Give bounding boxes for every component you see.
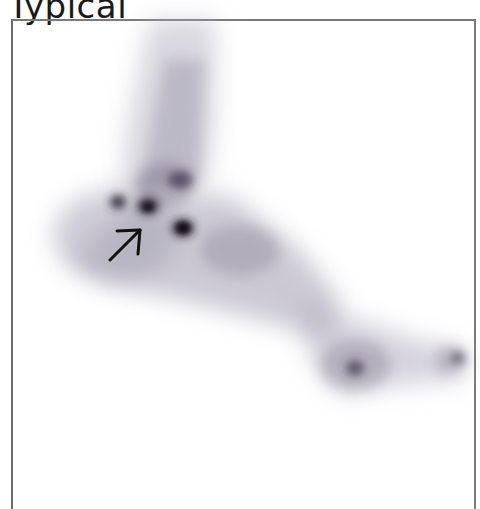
bone-scan-image [0, 0, 480, 495]
